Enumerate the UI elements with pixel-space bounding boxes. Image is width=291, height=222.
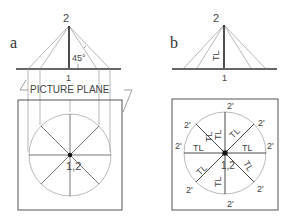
panel-a-point-2: 2 <box>63 12 69 24</box>
rim-label-n: 2' <box>227 101 234 111</box>
angle-tick <box>84 46 86 48</box>
true-length-label: TL <box>211 50 221 61</box>
rim-label-ne: 2' <box>258 118 265 128</box>
panel-a: a 2 45° 1 PICTURE PLANE <box>10 12 132 210</box>
leader-left <box>20 80 28 90</box>
rim-label-se: 2' <box>257 184 264 194</box>
center-point <box>223 151 228 156</box>
angle-label: 45° <box>72 53 86 63</box>
panel-b-point-2: 2 <box>213 12 219 24</box>
sight-line <box>224 25 251 68</box>
panel-b: b 2 TL 1 1,2 TL TL TL TL TL TL TL TL 2' … <box>170 12 278 210</box>
rim-label-sw: 2' <box>186 185 193 195</box>
rim-label-nw: 2' <box>184 120 191 130</box>
panel-b-center-label: 1,2 <box>221 160 235 171</box>
rim-label-s: 2' <box>227 199 234 209</box>
panel-a-point-1: 1 <box>66 73 71 83</box>
panel-a-center-label: 1,2 <box>66 160 81 172</box>
center-point <box>68 153 72 157</box>
rim-label-w: 2' <box>175 141 182 151</box>
panel-b-point-1: 1 <box>222 73 227 83</box>
panel-a-label: a <box>10 34 17 51</box>
tl-label-nw: TL <box>204 131 214 142</box>
tl-label-w: TL <box>193 143 204 153</box>
leader-right <box>123 90 132 112</box>
tl-label-e: TL <box>242 143 253 153</box>
diagram-canvas: a 2 45° 1 PICTURE PLANE <box>0 0 291 222</box>
panel-b-label: b <box>170 34 178 51</box>
tl-label-sw: TL <box>194 163 209 178</box>
rim-label-e: 2' <box>267 141 274 151</box>
sight-line <box>224 25 265 68</box>
tl-label-n: TL <box>213 129 223 140</box>
tl-label-s: TL <box>213 176 223 187</box>
picture-plane-label: PICTURE PLANE <box>30 84 110 95</box>
sight-line <box>40 26 69 69</box>
sight-line <box>28 26 69 69</box>
